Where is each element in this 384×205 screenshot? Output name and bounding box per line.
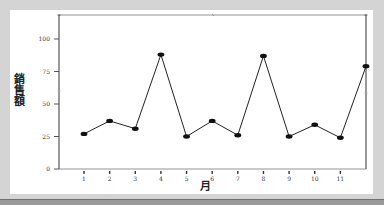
x-tick-label: 4 <box>159 175 163 182</box>
x-tick-label: 8 <box>262 175 266 182</box>
y-tick-label: 75 <box>42 68 50 75</box>
x-tick-label: 9 <box>287 175 291 182</box>
x-tick-label: 10 <box>311 175 319 182</box>
data-point <box>183 134 190 138</box>
x-tick-label: 1 <box>82 175 86 182</box>
y-axis-ticks: 0255075100 <box>39 35 59 172</box>
x-tick-label: 5 <box>185 175 189 182</box>
x-tick-label: 7 <box>236 175 240 182</box>
y-tick-label: 100 <box>39 35 51 42</box>
data-point <box>81 132 88 136</box>
data-point <box>132 127 139 131</box>
x-axis-title: 月 <box>199 180 211 193</box>
data-point <box>337 136 344 140</box>
data-point <box>106 119 113 123</box>
y-tick-label: 0 <box>46 165 50 172</box>
x-tick-label: 3 <box>133 175 137 182</box>
data-point <box>260 54 267 58</box>
data-series <box>81 52 370 140</box>
x-tick-label: 11 <box>337 175 345 182</box>
y-tick-label: 25 <box>42 133 50 140</box>
x-tick-label: 6 <box>210 175 214 182</box>
data-point <box>286 134 293 138</box>
data-point <box>234 133 241 137</box>
line-chart: 0255075100 1234567891011 銷售額 月 <box>0 0 384 205</box>
data-point <box>311 123 318 127</box>
data-point <box>363 64 370 68</box>
axes <box>58 14 368 169</box>
data-point <box>158 52 165 56</box>
x-tick-label: 2 <box>108 175 112 182</box>
y-axis-title: 銷售額 <box>13 72 25 108</box>
y-tick-label: 50 <box>42 100 50 107</box>
x-axis-ticks: 1234567891011 <box>82 171 344 182</box>
data-point <box>209 119 216 123</box>
